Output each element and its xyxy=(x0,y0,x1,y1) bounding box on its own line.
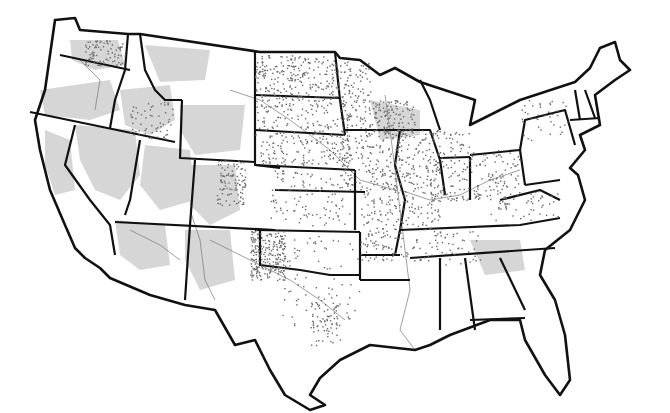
us-map-svg xyxy=(0,0,670,413)
us-map xyxy=(0,0,670,413)
